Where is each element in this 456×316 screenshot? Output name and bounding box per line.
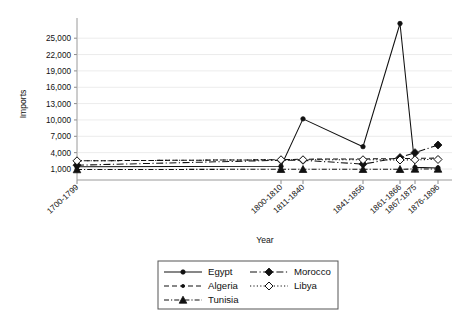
chart-svg: 1,0004,0007,00010,00013,00016,00019,0002…: [0, 0, 456, 316]
chart-legend: EgyptAlgeriaTunisiaMoroccoLibya: [158, 261, 338, 309]
x-axis-title: Year: [256, 235, 274, 245]
data-point: [398, 21, 402, 25]
data-point: [301, 117, 305, 121]
y-tick-label: 4,000: [51, 149, 72, 158]
legend-label: Tunisia: [208, 294, 239, 305]
legend-marker: [181, 284, 184, 287]
legend-marker: [181, 270, 185, 274]
legend-label: Egypt: [208, 266, 233, 277]
y-tick-label: 7,000: [51, 132, 72, 141]
y-tick-label: 13,000: [46, 100, 71, 109]
y-tick-label: 16,000: [46, 83, 71, 92]
data-point: [361, 144, 365, 148]
y-axis-title: Imports: [18, 90, 28, 119]
legend-label: Morocco: [294, 266, 331, 277]
y-tick-label: 25,000: [46, 34, 71, 43]
legend-label: Algeria: [208, 280, 239, 291]
imports-by-year-chart: 1,0004,0007,00010,00013,00016,00019,0002…: [0, 0, 456, 316]
y-tick-label: 1,000: [51, 165, 72, 174]
y-tick-label: 19,000: [46, 67, 71, 76]
legend-label: Libya: [294, 280, 318, 291]
y-tick-label: 22,000: [46, 51, 71, 60]
series-line-tunisia: [77, 169, 438, 170]
y-tick-label: 10,000: [46, 116, 71, 125]
